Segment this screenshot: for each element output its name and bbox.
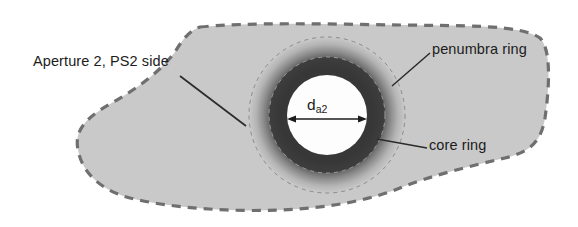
core-ring-label: core ring — [429, 138, 486, 154]
aperture-diameter-label: da2 — [307, 96, 327, 113]
aperture-opening — [287, 75, 367, 155]
penumbra-ring-label: penumbra ring — [432, 42, 527, 58]
diameter-symbol: d — [307, 96, 316, 113]
diagram-canvas — [0, 0, 578, 227]
diameter-subscript: a2 — [316, 103, 328, 115]
aperture-label: Aperture 2, PS2 side — [33, 54, 169, 70]
aperture-diagram-figure: Aperture 2, PS2 side penumbra ring core … — [0, 0, 578, 227]
